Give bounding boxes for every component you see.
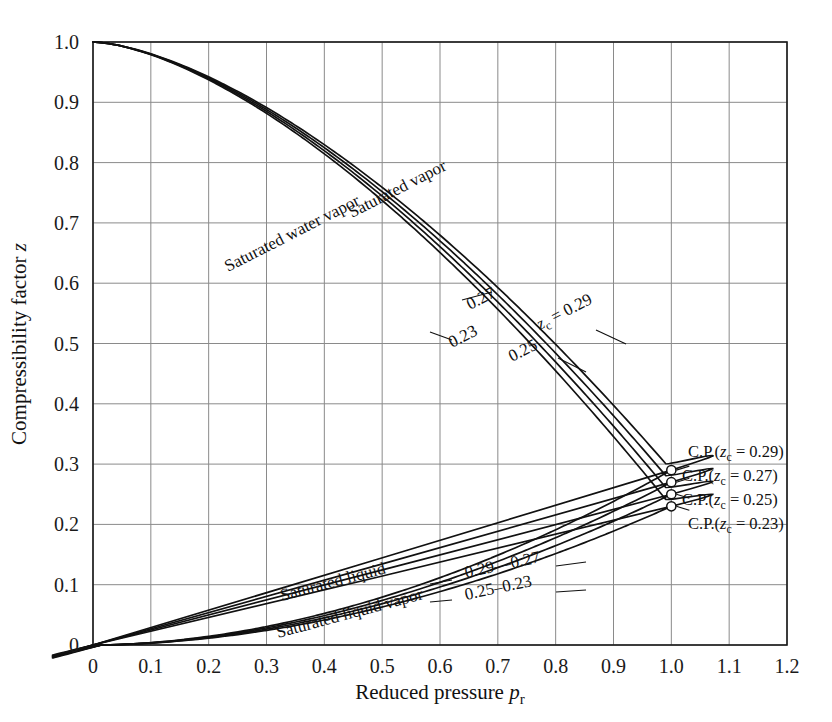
- cp-label-023: C.P.(zc = 0.23): [688, 514, 784, 536]
- y-tick-0.3: 0.3: [54, 453, 79, 475]
- y-tick-0.6: 0.6: [54, 272, 79, 294]
- y-axis-tick-labels: 00.10.20.30.40.50.60.70.80.91.0: [54, 31, 79, 656]
- x-tick-0: 0: [88, 655, 98, 677]
- x-tick-0.9: 0.9: [601, 655, 626, 677]
- x-tick-0.5: 0.5: [370, 655, 395, 677]
- compressibility-chart-figure: 00.10.20.30.40.50.60.70.80.91.01.11.2 00…: [0, 0, 832, 722]
- x-tick-0.6: 0.6: [428, 655, 453, 677]
- x-axis-tick-labels: 00.10.20.30.40.50.60.70.80.91.01.11.2: [88, 655, 800, 677]
- cp-label-027: C.P.(zc = 0.27): [682, 466, 778, 488]
- y-tick-0.2: 0.2: [54, 513, 79, 535]
- critical-point-marker-0-29: [667, 466, 676, 475]
- critical-point-labels: C.P.(zc = 0.29) C.P.(zc = 0.27) C.P.(zc …: [682, 442, 784, 536]
- y-tick-0.8: 0.8: [54, 152, 79, 174]
- cp-label-025: C.P.(zc = 0.25): [682, 490, 778, 512]
- y-tick-0.1: 0.1: [54, 574, 79, 596]
- label-saturated-vapor: Saturated vapor: [345, 156, 449, 222]
- chart-svg: 00.10.20.30.40.50.60.70.80.91.01.11.2 00…: [0, 0, 832, 722]
- critical-point-marker-0-25: [667, 490, 676, 499]
- x-tick-0.1: 0.1: [138, 655, 163, 677]
- x-tick-1.2: 1.2: [775, 655, 800, 677]
- y-tick-0.5: 0.5: [54, 333, 79, 355]
- critical-point-marker-0-23: [667, 502, 676, 511]
- x-tick-0.4: 0.4: [312, 655, 337, 677]
- label-vapor-zc029: zc = 0.29: [532, 289, 596, 336]
- x-tick-0.8: 0.8: [543, 655, 568, 677]
- y-axis-title: Compressibility factor z: [7, 243, 31, 445]
- x-axis-title: Reduced pressure pr: [355, 680, 525, 707]
- leader-line-4: [556, 562, 586, 566]
- label-vapor-023: 0.23: [445, 321, 480, 351]
- y-tick-0.7: 0.7: [54, 212, 79, 234]
- x-tick-0.3: 0.3: [254, 655, 279, 677]
- y-tick-0: 0: [69, 634, 79, 656]
- label-vapor-027: 0.27: [463, 283, 499, 314]
- cp-label-029: C.P.(zc = 0.29): [688, 442, 784, 464]
- label-saturated-water-vapor: Saturated water vapor: [221, 191, 363, 276]
- y-tick-0.4: 0.4: [54, 393, 79, 415]
- critical-point-marker-0-27: [667, 478, 676, 487]
- x-tick-1.1: 1.1: [717, 655, 742, 677]
- leader-line-6: [556, 590, 586, 592]
- y-tick-1.0: 1.0: [54, 31, 79, 53]
- y-tick-0.9: 0.9: [54, 91, 79, 113]
- x-tick-0.7: 0.7: [485, 655, 510, 677]
- leader-line-1: [596, 330, 626, 344]
- x-tick-1.0: 1.0: [659, 655, 684, 677]
- x-tick-0.2: 0.2: [196, 655, 221, 677]
- leader-line-7: [430, 600, 452, 602]
